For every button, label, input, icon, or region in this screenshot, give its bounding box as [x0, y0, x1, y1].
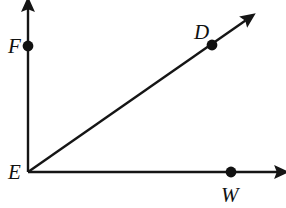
label-w: W: [221, 183, 241, 207]
label-d: D: [193, 20, 209, 44]
point-dot-f: [23, 41, 34, 52]
label-f: F: [7, 34, 21, 58]
geometry-diagram: F E D W: [0, 0, 286, 208]
label-e: E: [7, 160, 21, 184]
diagram-background: [0, 0, 286, 208]
point-dot-w: [226, 167, 237, 178]
geometry-canvas: F E D W: [0, 0, 286, 208]
